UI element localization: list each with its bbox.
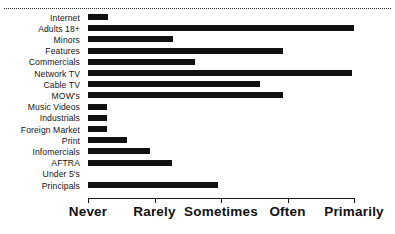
- bar: [88, 92, 283, 98]
- category-axis-labels: InternetAdults 18+MinorsFeaturesCommerci…: [0, 14, 84, 192]
- x-axis-tick: [88, 198, 89, 203]
- bar: [88, 81, 260, 87]
- bar: [88, 36, 173, 42]
- category-label: MOW's: [0, 92, 80, 101]
- bar: [88, 182, 218, 188]
- bar: [88, 104, 107, 110]
- x-axis-tick: [354, 198, 355, 203]
- bar: [88, 148, 150, 154]
- category-label: Principals: [0, 182, 80, 191]
- category-label: Minors: [0, 36, 80, 45]
- bar: [88, 25, 354, 31]
- category-label: Under 5's: [0, 170, 80, 179]
- bar: [88, 115, 107, 121]
- category-label: Features: [0, 47, 80, 56]
- category-label: Industrials: [0, 114, 80, 123]
- bar: [88, 126, 107, 132]
- category-label: Internet: [0, 14, 80, 23]
- x-axis-tick-labels: NeverRarelySometimesOftenPrimarily: [0, 204, 395, 226]
- x-axis-tick-label: Primarily: [324, 204, 384, 220]
- category-label: Print: [0, 137, 80, 146]
- x-axis-tick-label: Often: [269, 204, 305, 220]
- x-axis-tick-label: Never: [69, 204, 108, 220]
- plot-area: [88, 14, 354, 192]
- category-label: Network TV: [0, 70, 80, 79]
- category-label: Commercials: [0, 58, 80, 67]
- category-label: Foreign Market: [0, 126, 80, 135]
- x-axis-tick-label: Rarely: [133, 204, 175, 220]
- bar: [88, 59, 195, 65]
- category-label: Infomercials: [0, 148, 80, 157]
- bar: [88, 160, 172, 166]
- bar: [88, 14, 108, 20]
- category-label: Adults 18+: [0, 25, 80, 34]
- category-label: Cable TV: [0, 81, 80, 90]
- category-label: AFTRA: [0, 159, 80, 168]
- bar: [88, 70, 352, 76]
- x-axis-tick: [155, 198, 156, 203]
- x-axis-tick: [221, 198, 222, 203]
- bar: [88, 48, 283, 54]
- x-axis-tick: [288, 198, 289, 203]
- category-label: Music Videos: [0, 103, 80, 112]
- bar-chart: InternetAdults 18+MinorsFeaturesCommerci…: [0, 0, 395, 234]
- bar: [88, 137, 127, 143]
- x-axis-tick-label: Sometimes: [184, 204, 258, 220]
- top-dotted-rule: [4, 8, 391, 9]
